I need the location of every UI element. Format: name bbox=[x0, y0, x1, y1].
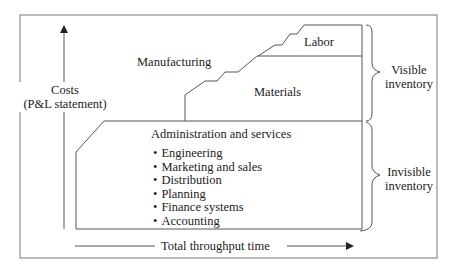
list-item: Distribution bbox=[153, 174, 262, 188]
visible-inventory-label: Visible inventory bbox=[381, 63, 437, 91]
invisible-inventory-line2: inventory bbox=[381, 179, 437, 193]
visible-inventory-line2: inventory bbox=[381, 77, 437, 91]
y-axis-label-line2: (P&L statement) bbox=[16, 97, 114, 111]
list-item: Marketing and sales bbox=[153, 161, 262, 175]
admin-label: Administration and services bbox=[151, 127, 291, 141]
admin-items-list: Engineering Marketing and sales Distribu… bbox=[153, 147, 262, 229]
invisible-inventory-line1: Invisible bbox=[381, 165, 437, 179]
visible-inventory-line1: Visible bbox=[381, 63, 437, 77]
invisible-inventory-brace bbox=[360, 122, 380, 231]
y-axis-label: Costs (P&L statement) bbox=[16, 82, 114, 112]
visible-inventory-brace bbox=[366, 25, 380, 121]
y-axis-label-line1: Costs bbox=[16, 83, 114, 97]
materials-label: Materials bbox=[254, 85, 301, 99]
list-item: Planning bbox=[153, 188, 262, 202]
list-item: Finance systems bbox=[153, 201, 262, 215]
labor-label: Labor bbox=[304, 35, 334, 49]
list-item: Accounting bbox=[153, 215, 262, 229]
manufacturing-label: Manufacturing bbox=[137, 55, 211, 69]
x-axis-label: Total throughput time bbox=[161, 239, 270, 253]
list-item: Engineering bbox=[153, 147, 262, 161]
invisible-inventory-label: Invisible inventory bbox=[381, 165, 437, 193]
